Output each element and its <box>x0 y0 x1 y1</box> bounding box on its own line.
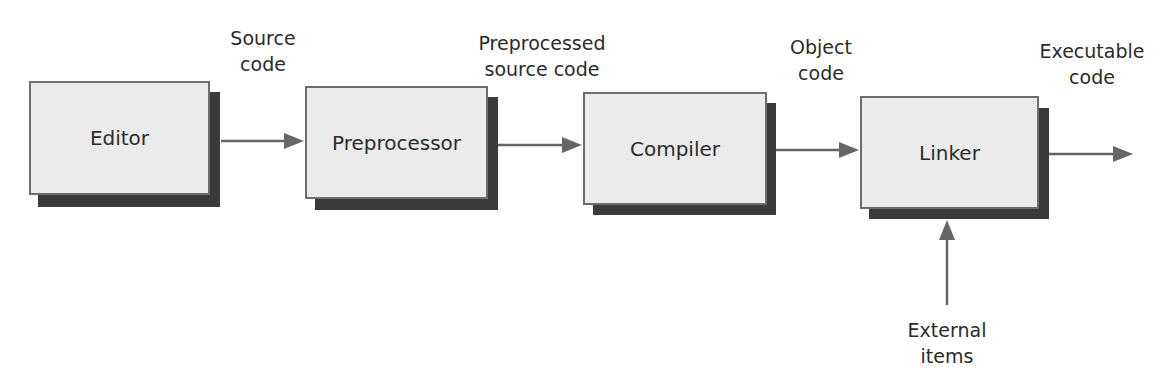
external-items-label: External items <box>897 317 997 369</box>
executable-code-label: Executable code <box>1022 38 1162 90</box>
source-code-label: Source code <box>218 25 308 77</box>
object-code-label: Object code <box>776 34 866 86</box>
preprocessed-code-label: Preprocessed source code <box>462 30 622 82</box>
